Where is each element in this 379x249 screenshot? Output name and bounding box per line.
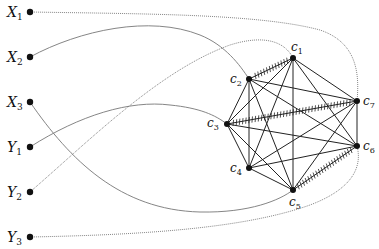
hatch-mark [271, 113, 272, 119]
node-Y2 [27, 189, 33, 195]
hatch-mark [255, 73, 256, 79]
hatch-mark [306, 107, 307, 113]
hatch-mark [334, 102, 335, 108]
node-c6 [354, 143, 360, 149]
hatch-mark [318, 105, 319, 111]
hatch-mark [340, 101, 341, 107]
label-X3: X3 [6, 94, 23, 112]
edge-c5-c7 [293, 101, 357, 190]
node-c4 [246, 165, 252, 171]
hatch-mark [299, 108, 300, 114]
graph-diagram: X1X2X3Y1Y2Y3c1c2c3c4c5c6c7 [0, 0, 379, 249]
hatch-mark [236, 119, 237, 125]
hatch-mark [302, 108, 303, 114]
labels: X1X2X3Y1Y2Y3c1c2c3c4c5c6c7 [6, 4, 375, 247]
hatch-mark [290, 110, 291, 116]
edge-x2-c2 [30, 26, 249, 79]
hatch-mark [324, 104, 325, 110]
node-X3 [27, 99, 33, 105]
hatch-mark [264, 69, 265, 75]
hatch-mark [350, 99, 351, 105]
hatch-mark [277, 112, 278, 118]
label-X1: X1 [6, 4, 23, 22]
label-c5: c5 [289, 195, 301, 211]
hatch-mark [296, 109, 297, 115]
hatch-mark [284, 59, 285, 65]
label-c6: c6 [363, 139, 375, 155]
hatch-mark [242, 118, 243, 124]
hatch-mark [275, 63, 276, 69]
node-c1 [290, 55, 296, 61]
label-Y1: Y1 [7, 139, 22, 157]
hatch-mark [261, 115, 262, 121]
label-c4: c4 [230, 161, 242, 177]
hatch-mark [258, 115, 259, 121]
hatch-mark [246, 118, 247, 124]
label-Y3: Y3 [7, 229, 22, 247]
hatch-mark [283, 111, 284, 117]
hatch-mark [269, 66, 270, 72]
label-X2: X2 [6, 49, 23, 67]
label-Y2: Y2 [7, 184, 22, 202]
hatch-mark [281, 60, 282, 66]
hatch-mark [268, 114, 269, 120]
hatch-mark [272, 65, 273, 71]
hatch-mark [337, 101, 338, 107]
hatch-mark [328, 103, 329, 109]
hatch-mark [239, 119, 240, 125]
hatch-mark [321, 104, 322, 110]
hatch-mark [293, 109, 294, 115]
node-X1 [27, 9, 33, 15]
hatch-mark [278, 62, 279, 68]
edge-y2-c1 [30, 40, 293, 192]
hatch-mark [252, 116, 253, 122]
hatch-mark [309, 106, 310, 112]
hatch-mark [274, 113, 275, 119]
hatch-mark [280, 111, 281, 117]
connection-edges [30, 12, 358, 237]
hatch-mark [312, 106, 313, 112]
node-X2 [27, 54, 33, 60]
hatch-mark [346, 100, 347, 106]
hatch-mark [258, 71, 259, 77]
edge-c4-c5 [249, 168, 293, 190]
node-c3 [224, 121, 230, 127]
hatch-mark [343, 100, 344, 106]
hatch-mark [261, 70, 262, 76]
hatch-mark [331, 103, 332, 109]
hatch-mark [265, 114, 266, 120]
node-c7 [354, 98, 360, 104]
node-Y1 [27, 144, 33, 150]
hatch-mark [315, 105, 316, 111]
label-c3: c3 [207, 116, 219, 132]
edge-y3-c6 [30, 146, 358, 237]
node-c2 [246, 76, 252, 82]
hatch-mark [233, 120, 234, 126]
node-Y3 [27, 234, 33, 240]
edge-c2-c6 [249, 79, 357, 146]
label-c1: c1 [291, 40, 303, 56]
edge-x1-c7 [30, 12, 358, 101]
node-c5 [290, 187, 296, 193]
hatch-mark [255, 116, 256, 122]
hatch-mark [287, 110, 288, 116]
label-c7: c7 [363, 94, 375, 110]
label-c2: c2 [230, 72, 242, 88]
hatch-mark [249, 117, 250, 123]
hatch-mark [287, 58, 288, 64]
hatch-mark [266, 67, 267, 73]
nodes [27, 9, 360, 240]
edge-c1-c6 [293, 58, 357, 146]
